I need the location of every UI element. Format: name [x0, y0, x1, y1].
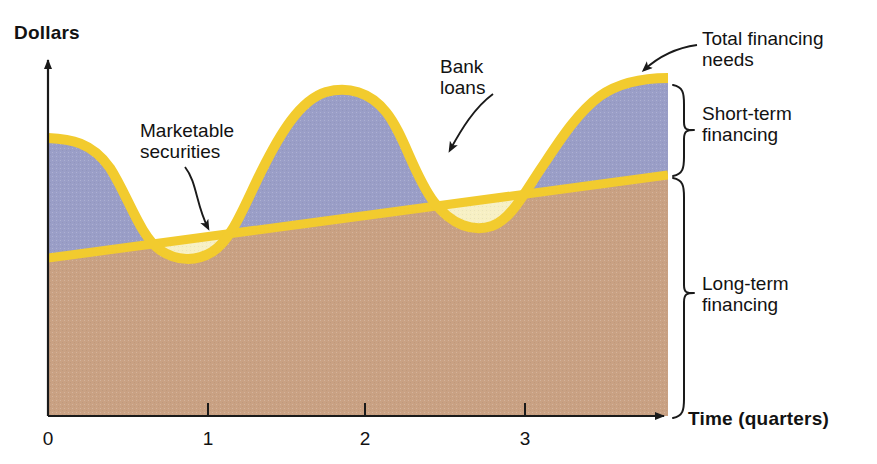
figure-canvas: Dollars Time (quarters) Marketable secur… [0, 0, 877, 464]
short-term-financing-label: Short-term financing [702, 103, 792, 146]
marketable-securities-label: Marketable securities [140, 120, 234, 163]
x-tick-label-3: 3 [510, 428, 540, 450]
x-tick-label-1: 1 [193, 428, 223, 450]
x-axis-title: Time (quarters) [688, 408, 829, 429]
arrow-bank-loans [450, 94, 493, 150]
brace-long-term-financing [673, 178, 694, 418]
x-tick-label-0: 0 [33, 428, 63, 450]
y-axis-title: Dollars [14, 22, 80, 43]
bank-loans-label: Bank loans [440, 56, 485, 99]
long-term-financing-label: Long-term financing [702, 273, 789, 316]
x-tick-label-2: 2 [350, 428, 380, 450]
arrow-marketable-securities [185, 167, 208, 228]
brace-short-term-financing [673, 85, 694, 176]
total-financing-needs-label: Total financing needs [702, 28, 823, 71]
arrow-total-financing-needs [644, 45, 697, 70]
